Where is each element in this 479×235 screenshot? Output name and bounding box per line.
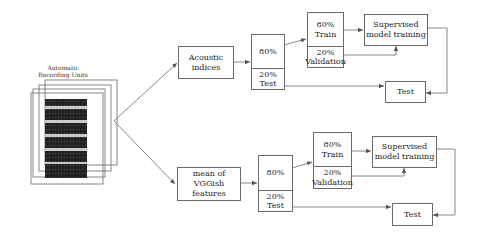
model-label-line1: Supervised	[382, 142, 427, 152]
split-test-label: Test	[260, 79, 277, 89]
split-20-label: 20%	[267, 192, 285, 202]
train-section: 80% Train	[314, 133, 351, 166]
vggish-features-box: mean of VGGish features	[177, 167, 241, 201]
supervised-training-box-2: Supervised model training	[372, 136, 437, 168]
feature-label-line1: Acoustic	[189, 53, 224, 63]
recording-units-caption: Automatic Recording Units	[26, 64, 100, 78]
split-80-section: 80%	[252, 35, 284, 68]
train-validation-box-2: 80% Train 20% Validation	[313, 132, 352, 189]
test-label: Test	[397, 87, 414, 97]
validation-label: Validation	[312, 178, 353, 188]
caption-line-1: Automatic	[26, 64, 100, 71]
validation-label: Validation	[305, 57, 346, 67]
test-box-1: Test	[385, 81, 426, 103]
validation-pct: 20%	[317, 48, 335, 58]
split-20-section: 20% Test	[252, 68, 284, 89]
waveform-image	[45, 99, 87, 178]
train-label: Train	[322, 150, 344, 160]
arrow-to-vggish	[114, 121, 175, 184]
train-section: 80% Train	[308, 13, 343, 46]
train-test-split-box-1: 80% 20% Test	[251, 34, 285, 90]
supervised-training-box-1: Supervised model training	[364, 14, 428, 46]
model-label-line1: Supervised	[373, 20, 418, 30]
feature-label-line2: indices	[192, 63, 221, 73]
split-20-section: 20% Test	[259, 190, 292, 211]
split-test-label: Test	[267, 201, 284, 211]
train-test-split-box-2: 80% 20% Test	[258, 155, 293, 212]
split-20-label: 20%	[259, 70, 277, 80]
acoustic-indices-box: Acoustic indices	[178, 46, 234, 79]
validation-pct: 20%	[324, 168, 342, 178]
validation-section: 20% Validation	[308, 46, 343, 67]
split-80-section: 80%	[259, 156, 292, 190]
split-80-label: 80%	[267, 168, 285, 178]
caption-line-2: Recording Units	[26, 71, 100, 78]
test-box-2: Test	[392, 203, 433, 226]
train-pct: 80%	[317, 20, 335, 30]
model-label-line2: model training	[375, 152, 435, 162]
split-80-label: 80%	[259, 47, 277, 57]
feature-label-line1: mean of	[193, 169, 226, 179]
train-label: Train	[315, 30, 337, 40]
train-validation-box-1: 80% Train 20% Validation	[307, 12, 344, 68]
test-label: Test	[404, 210, 421, 220]
model-label-line2: model training	[366, 30, 426, 40]
arrow-to-acoustic	[114, 63, 177, 121]
feature-label-line2: VGGish features	[178, 179, 240, 199]
validation-section: 20% Validation	[314, 166, 351, 188]
train-pct: 80%	[324, 140, 342, 150]
